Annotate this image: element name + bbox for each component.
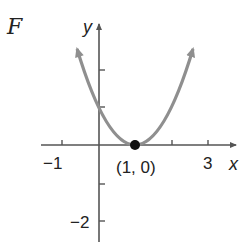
parabola-graph: y x −1 3 −2 (1, 0) [0, 0, 241, 242]
x-tick-label-3: 3 [203, 154, 212, 173]
y-tick-label-neg2: −2 [70, 213, 89, 232]
x-axis-label: x [228, 154, 239, 174]
parabola-curve [77, 49, 193, 145]
vertex-label: (1, 0) [116, 158, 156, 177]
x-tick-label-neg1: −1 [43, 154, 62, 173]
y-axis-label: y [81, 17, 93, 37]
vertex-point [130, 140, 140, 150]
